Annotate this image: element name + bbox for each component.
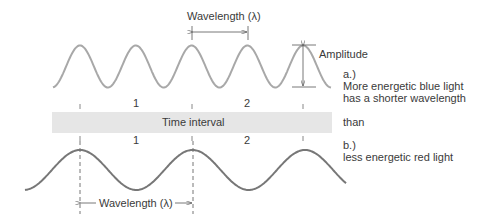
amplitude-label: Amplitude bbox=[319, 48, 368, 60]
light-wavelength-diagram bbox=[0, 0, 481, 224]
connector-than: than bbox=[343, 116, 364, 128]
caption-a-line1: More energetic blue light bbox=[343, 80, 463, 92]
bottom-marker-1: 1 bbox=[133, 134, 139, 146]
caption-a-line2: has a shorter wavelength bbox=[343, 92, 466, 104]
top-marker-2: 2 bbox=[244, 97, 250, 109]
caption-a-label: a.) bbox=[343, 68, 356, 80]
top-wavelength-label: Wavelength (λ) bbox=[187, 10, 261, 22]
time-interval-label: Time interval bbox=[162, 116, 225, 128]
top-marker-1: 1 bbox=[133, 97, 139, 109]
caption-b-line1: less energetic red light bbox=[343, 151, 453, 163]
blue-light-wave bbox=[53, 46, 331, 88]
top-wavelength-marker bbox=[192, 26, 248, 40]
bottom-wavelength-label: Wavelength (λ) bbox=[99, 197, 173, 209]
caption-b-label: b.) bbox=[343, 139, 356, 151]
bottom-marker-2: 2 bbox=[244, 134, 250, 146]
red-light-wave bbox=[25, 150, 346, 190]
